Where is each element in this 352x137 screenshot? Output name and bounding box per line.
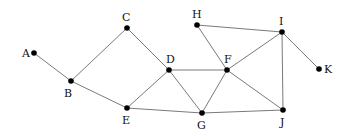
node-label-a: A [21,47,31,60]
node-d [166,67,172,73]
edge-b-c [71,28,127,81]
node-label-i: I [279,15,283,28]
node-k [316,66,322,72]
nodes-group [31,22,322,116]
edge-i-j [282,32,283,110]
node-e [124,105,130,111]
edge-d-g [169,70,202,113]
graph-diagram: ABCDEFGHIJK [0,0,352,137]
edge-f-i [227,32,282,70]
node-f [224,67,230,73]
node-j [280,107,286,113]
node-label-b: B [64,87,72,100]
node-label-g: G [197,119,206,132]
edge-f-g [202,70,227,113]
node-c [124,25,130,31]
edge-c-d [127,28,169,70]
node-h [194,22,200,28]
edge-f-j [227,70,283,110]
edge-b-e [71,81,127,108]
edge-h-i [197,25,282,32]
edge-f-h [197,25,227,70]
node-label-k: K [324,63,333,76]
node-label-c: C [122,11,130,24]
edge-i-k [282,32,319,69]
edge-d-e [127,70,169,108]
edge-e-g [127,108,202,113]
node-i [279,29,285,35]
edges-group [34,25,319,113]
node-label-j: J [279,116,284,129]
edge-g-j [202,110,283,113]
node-label-e: E [122,114,130,127]
node-b [68,78,74,84]
node-label-h: H [192,8,202,21]
node-label-f: F [224,53,232,66]
node-a [31,50,37,56]
node-label-d: D [166,53,175,66]
edge-a-b [34,53,71,81]
node-g [199,110,205,116]
